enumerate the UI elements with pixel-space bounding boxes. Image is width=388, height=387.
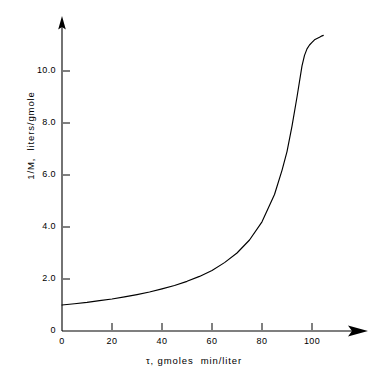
y-tick-label: 4.0 bbox=[16, 221, 56, 231]
chart-figure: 020406080100 02.04.06.08.010.0 τ, gmoles… bbox=[0, 0, 388, 387]
chart-background bbox=[0, 0, 388, 387]
y-tick-label: 10.0 bbox=[16, 65, 56, 75]
x-tick-label: 60 bbox=[192, 336, 232, 346]
x-tick-label: 0 bbox=[42, 336, 82, 346]
plot-canvas bbox=[0, 0, 388, 387]
x-axis-title: τ, gmoles min/liter bbox=[0, 355, 388, 366]
x-tick-label: 80 bbox=[242, 336, 282, 346]
y-tick-label: 6.0 bbox=[16, 169, 56, 179]
y-axis-title: 1/M, liters/gmole bbox=[25, 36, 36, 236]
y-tick-label: 8.0 bbox=[16, 117, 56, 127]
y-tick-label: 0 bbox=[16, 325, 56, 335]
x-tick-label: 100 bbox=[292, 336, 332, 346]
x-tick-label: 20 bbox=[92, 336, 132, 346]
x-tick-label: 40 bbox=[142, 336, 182, 346]
y-tick-label: 2.0 bbox=[16, 273, 56, 283]
